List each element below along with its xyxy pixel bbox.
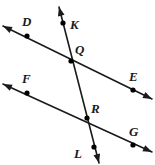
label-F: F xyxy=(21,71,31,86)
label-K: K xyxy=(69,17,80,32)
point-L xyxy=(91,144,96,149)
line-FG-arrowhead-end xyxy=(142,145,152,152)
point-G xyxy=(130,142,135,147)
point-D xyxy=(24,33,29,38)
point-Q xyxy=(68,58,73,63)
point-E xyxy=(130,87,135,92)
label-G: G xyxy=(129,124,139,139)
geometry-diagram: DEFGKLQR xyxy=(0,0,155,165)
line-KL xyxy=(59,7,99,163)
point-R xyxy=(84,115,89,120)
points-group xyxy=(24,20,135,149)
line-DE-arrowhead-end xyxy=(142,92,152,99)
label-E: E xyxy=(128,69,138,84)
label-Q: Q xyxy=(75,42,85,57)
point-K xyxy=(60,20,65,25)
geometry-svg: DEFGKLQR xyxy=(0,0,155,165)
line-DE-arrowhead-start xyxy=(3,26,13,33)
line-KL-arrowhead-end xyxy=(93,153,100,163)
line-KL-arrowhead-start xyxy=(58,7,65,17)
label-R: R xyxy=(90,101,100,116)
label-L: L xyxy=(73,146,82,161)
label-D: D xyxy=(21,14,32,29)
point-F xyxy=(24,90,29,95)
line-FG-arrowhead-start xyxy=(3,84,13,91)
